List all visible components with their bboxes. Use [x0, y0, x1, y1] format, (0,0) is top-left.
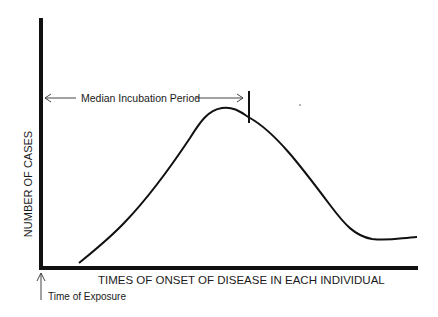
- epidemic-curve-chart: Median Incubation Period NUMBER OF CASES…: [0, 0, 438, 317]
- cases-curve: [79, 108, 417, 263]
- speck-dot: [299, 104, 301, 106]
- y-axis-label: NUMBER OF CASES: [22, 131, 34, 237]
- x-axis-label: TIMES OF ONSET OF DISEASE IN EACH INDIVI…: [98, 274, 385, 286]
- exposure-label: Time of Exposure: [48, 291, 126, 302]
- median-label: Median Incubation Period: [81, 92, 200, 104]
